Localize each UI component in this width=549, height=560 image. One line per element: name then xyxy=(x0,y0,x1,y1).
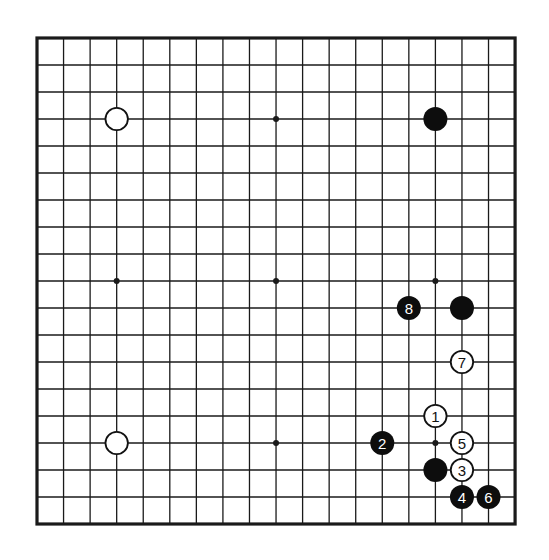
move-number: 2 xyxy=(378,435,386,452)
black-stone xyxy=(423,458,447,482)
star-point-icon xyxy=(273,116,279,122)
numbered-white-stone: 1 xyxy=(424,405,446,427)
numbered-black-stone: 4 xyxy=(450,485,474,509)
black-stone xyxy=(423,107,447,131)
numbered-black-stone: 6 xyxy=(477,485,501,509)
star-point-icon xyxy=(273,278,279,284)
move-number: 8 xyxy=(405,300,413,317)
move-number: 1 xyxy=(431,408,439,425)
black-stone-icon xyxy=(423,458,447,482)
numbered-white-stone: 5 xyxy=(451,432,473,454)
star-point-icon xyxy=(432,278,438,284)
white-stone-icon xyxy=(105,432,127,454)
white-stone-icon xyxy=(105,108,127,130)
white-stone xyxy=(105,432,127,454)
white-stone xyxy=(105,108,127,130)
star-point-icon xyxy=(273,440,279,446)
go-board: 12345678 xyxy=(0,0,549,560)
star-point-icon xyxy=(432,440,438,446)
move-number: 4 xyxy=(458,489,466,506)
numbered-white-stone: 3 xyxy=(451,459,473,481)
black-stone-icon xyxy=(423,107,447,131)
black-stone xyxy=(450,296,474,320)
move-number: 7 xyxy=(458,354,466,371)
numbered-black-stone: 2 xyxy=(370,431,394,455)
star-point-icon xyxy=(114,278,120,284)
move-number: 3 xyxy=(458,462,466,479)
numbered-white-stone: 7 xyxy=(451,351,473,373)
move-number: 6 xyxy=(484,489,492,506)
move-number: 5 xyxy=(458,435,466,452)
numbered-black-stone: 8 xyxy=(397,296,421,320)
black-stone-icon xyxy=(450,296,474,320)
